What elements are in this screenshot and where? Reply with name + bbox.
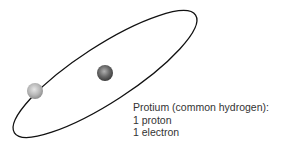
proton-nucleus xyxy=(97,65,113,81)
electron xyxy=(27,83,43,99)
label-proton-count: 1 proton xyxy=(133,114,269,127)
label-electron-count: 1 electron xyxy=(133,126,269,139)
atom-label: Protium (common hydrogen): 1 proton 1 el… xyxy=(133,101,269,139)
label-title: Protium (common hydrogen): xyxy=(133,101,269,114)
